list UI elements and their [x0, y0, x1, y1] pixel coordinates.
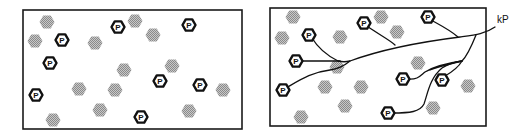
gray-blob: [461, 80, 476, 93]
gray-blob: [72, 83, 87, 96]
particle-p: P: [30, 89, 43, 100]
gray-blob: [330, 61, 345, 74]
particle-label: P: [115, 23, 121, 32]
branch-paths: [286, 20, 495, 113]
blob-group: [28, 15, 231, 127]
particle-label: P: [157, 77, 163, 86]
particle-label: P: [439, 76, 445, 85]
gray-blob: [333, 31, 348, 44]
panel-right: PPPPPPPP kP: [270, 8, 509, 126]
branch-path: [392, 61, 462, 113]
particle-p: P: [303, 29, 316, 40]
gray-blob: [411, 57, 426, 70]
gray-blob: [117, 64, 132, 77]
gray-blob: [128, 15, 143, 28]
particle-p: P: [436, 74, 449, 85]
particle-p: P: [154, 75, 167, 86]
particle-p: P: [44, 57, 57, 68]
gray-blob: [146, 29, 161, 42]
gray-blob: [318, 81, 333, 94]
particle-label: P: [186, 21, 192, 30]
particle-p: P: [397, 73, 410, 84]
diagram-canvas: PPPPPPPP PPPPPPPP kP: [0, 0, 526, 139]
gray-blob: [354, 81, 369, 94]
gray-blob: [93, 104, 108, 117]
gray-blob: [108, 84, 123, 97]
output-label-kp: kP: [497, 14, 509, 25]
particle-label: P: [361, 19, 367, 28]
particle-p: P: [422, 11, 435, 22]
particle-label: P: [293, 57, 299, 66]
gray-blob: [88, 37, 103, 50]
gray-blob: [286, 11, 301, 24]
panel-left-frame: [23, 10, 242, 129]
particle-label: P: [59, 36, 65, 45]
particle-label: P: [306, 31, 312, 40]
particle-p: P: [183, 19, 196, 30]
particle-p: P: [382, 107, 395, 118]
gray-blob: [338, 100, 353, 113]
particle-label: P: [138, 113, 144, 122]
particle-label: P: [425, 13, 431, 22]
gray-blob: [275, 32, 290, 45]
gray-blob: [165, 60, 180, 73]
particle-label: P: [400, 75, 406, 84]
gray-blob: [46, 114, 61, 127]
gray-blob: [182, 105, 197, 118]
branch-path: [431, 20, 458, 37]
gray-blob: [216, 84, 231, 97]
particle-p: P: [56, 34, 69, 45]
particle-label: P: [47, 59, 53, 68]
particle-p: P: [112, 21, 125, 32]
gray-blob: [426, 102, 441, 115]
gray-blob: [374, 11, 389, 24]
particle-p: P: [135, 111, 148, 122]
particle-label: P: [385, 109, 391, 118]
gray-blob: [294, 111, 309, 124]
particle-label: P: [33, 91, 39, 100]
particle-p: P: [277, 84, 290, 95]
branch-path: [367, 26, 395, 45]
panel-right-frame: [270, 8, 486, 126]
gray-blob: [40, 16, 55, 29]
particle-label: P: [280, 86, 286, 95]
trunk-path: [286, 27, 495, 88]
panel-left: PPPPPPPP: [23, 10, 242, 129]
gray-blob: [390, 26, 405, 39]
particle-p: P: [290, 55, 303, 66]
particle-p: P: [194, 79, 207, 90]
particle-label: P: [197, 81, 203, 90]
gray-blob: [28, 35, 43, 48]
particle-p: P: [358, 17, 371, 28]
